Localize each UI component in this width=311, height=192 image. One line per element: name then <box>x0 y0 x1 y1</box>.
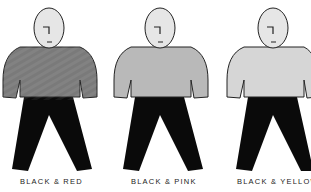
pants <box>12 97 92 171</box>
label-black-red: BLACK & RED <box>20 177 83 186</box>
label-black-pink: BLACK & PINK <box>131 177 197 186</box>
figure-black-red <box>0 0 311 192</box>
figure-1 <box>3 8 97 171</box>
figure-3 <box>227 8 311 171</box>
figure-2 <box>114 8 208 171</box>
label-black-yellow: BLACK & YELLOW <box>237 177 311 186</box>
